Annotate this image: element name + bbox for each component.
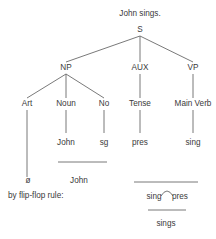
final-result-sings: sings <box>156 219 175 229</box>
leaf-sing: sing <box>185 138 200 148</box>
node-number: No <box>99 99 109 109</box>
edge-s-vp <box>140 36 193 62</box>
node-vp: VP <box>188 63 199 73</box>
node-s: S <box>137 25 142 35</box>
flip-pres: pres <box>172 192 188 202</box>
leaf-null-article: ø <box>25 176 30 186</box>
leaf-john: John <box>57 138 75 148</box>
node-noun: Noun <box>56 99 76 109</box>
sentence-title: John sings. <box>119 9 160 19</box>
node-main-verb: Main Verb <box>175 99 212 109</box>
leaf-pres: pres <box>132 138 148 148</box>
node-tense: Tense <box>129 99 151 109</box>
tree-edges <box>0 0 216 239</box>
node-np: NP <box>60 63 71 73</box>
node-aux: AUX <box>132 63 149 73</box>
node-art: Art <box>22 99 32 109</box>
np-result-john: John <box>70 176 88 186</box>
flip-sing: sing <box>146 192 161 202</box>
syntax-tree-diagram: John sings. S NP AUX VP Art Noun No Tens… <box>0 0 216 239</box>
flip-flop-rule-label: by flip-flop rule: <box>8 191 64 201</box>
edge-s-np <box>66 36 140 62</box>
edge-np-art <box>27 74 66 98</box>
leaf-sg: sg <box>100 138 109 148</box>
edge-np-no <box>66 74 104 98</box>
